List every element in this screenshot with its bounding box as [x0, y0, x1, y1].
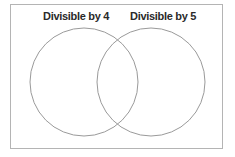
set-circle-divisible-by-5	[97, 28, 205, 136]
set-label-divisible-by-5: Divisible by 5	[130, 10, 196, 23]
venn-diagram	[0, 0, 235, 157]
set-label-divisible-by-4: Divisible by 4	[43, 10, 109, 23]
set-circle-divisible-by-4	[30, 28, 138, 136]
